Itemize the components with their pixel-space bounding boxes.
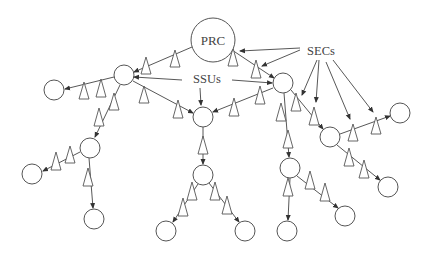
node-right-lower (378, 177, 398, 197)
edge-right-branch-right-lower (337, 145, 380, 180)
sec-triangle (187, 182, 197, 200)
node-far-left (44, 80, 64, 100)
node-center-mid (193, 165, 213, 185)
sec-triangle (348, 124, 358, 141)
sec-triangle (344, 148, 354, 166)
ssu-node-center (193, 107, 213, 127)
ssus-label: SSUs (193, 72, 221, 86)
sec-triangle (359, 160, 369, 178)
sec-triangle (283, 178, 293, 196)
secs-arrow-2 (262, 50, 300, 66)
sec-triangle (83, 168, 93, 186)
node-right-bottom-right (335, 206, 355, 226)
sec-triangle (222, 196, 232, 214)
sec-triangle (283, 130, 293, 148)
sec-triangle (198, 136, 208, 154)
sec-triangle (94, 108, 104, 126)
secs-arrow-4 (316, 60, 319, 102)
sec-triangle (320, 183, 330, 201)
sec-triangle (251, 60, 261, 78)
ssu-node-right (273, 73, 293, 93)
ssus-arrow-left (134, 77, 182, 80)
sec-triangle (229, 98, 239, 116)
edge-ssu-left-far-left (65, 77, 114, 89)
node-right-branch (320, 127, 340, 147)
annotation-arrows (134, 48, 373, 119)
secs-label: SECs (307, 44, 335, 58)
clock-distribution-diagram: PRC SSUs SECs (0, 0, 429, 255)
secs-arrow-5 (326, 62, 350, 119)
sec-triangle (291, 93, 301, 111)
node-right-mid (280, 158, 300, 178)
secs-arrow-6 (333, 60, 373, 112)
sec-triangle (79, 82, 89, 99)
edge-right-mid-br (297, 176, 338, 208)
sec-triangle (96, 79, 106, 97)
sec-triangle (51, 152, 61, 170)
node-left-bottom (84, 209, 104, 229)
secs-arrow-3 (302, 60, 317, 95)
sec-triangle (210, 182, 220, 200)
ssu-node-left (114, 65, 134, 85)
node-center-bottom-right (235, 221, 255, 241)
node-left-mid (80, 138, 100, 158)
ssus-arrow-center (200, 88, 201, 105)
sec-triangle (276, 103, 286, 121)
ssus-arrow-right (232, 80, 272, 83)
sec-triangle (309, 107, 319, 125)
node-far-right (390, 103, 410, 123)
prc-label: PRC (201, 33, 226, 48)
node-center-bottom-left (156, 221, 176, 241)
node-left-leaf (22, 164, 42, 184)
edge-right-branch-far-right (340, 116, 390, 134)
sec-triangle (305, 171, 315, 189)
node-right-bottom-left (277, 221, 297, 241)
sec-triangle (109, 93, 119, 110)
secs-arrow-1 (240, 48, 300, 51)
sec-triangle (65, 146, 75, 163)
